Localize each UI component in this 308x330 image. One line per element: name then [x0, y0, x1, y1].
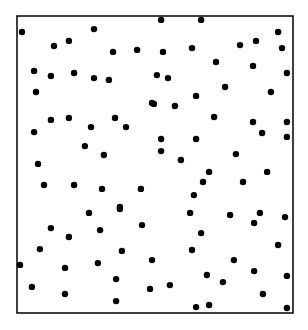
scatter-point — [240, 179, 246, 185]
scatter-point — [62, 265, 68, 271]
scatter-point — [264, 169, 270, 175]
scatter-point — [149, 257, 155, 263]
scatter-point — [29, 284, 35, 290]
scatter-point — [17, 262, 23, 268]
scatter-point — [284, 305, 290, 311]
scatter-point — [62, 291, 68, 297]
scatter-point — [97, 227, 103, 233]
scatter-point — [35, 161, 41, 167]
scatter-point — [117, 206, 123, 212]
scatter-point — [233, 151, 239, 157]
scatter-point — [113, 276, 119, 282]
scatter-point — [31, 68, 37, 74]
scatter-point — [48, 73, 54, 79]
scatter-point — [275, 242, 281, 248]
scatter-point — [206, 169, 212, 175]
scatter-point — [251, 220, 257, 226]
scatter-point — [86, 210, 92, 216]
scatter-plot — [0, 0, 308, 330]
scatter-point — [284, 70, 290, 76]
scatter-point — [198, 17, 204, 23]
scatter-point — [99, 186, 105, 192]
scatter-point — [257, 210, 263, 216]
scatter-point — [260, 291, 266, 297]
scatter-point — [193, 93, 199, 99]
scatter-point — [250, 63, 256, 69]
scatter-point — [88, 124, 94, 130]
scatter-point — [106, 77, 112, 83]
scatter-point — [191, 192, 197, 198]
scatter-point — [220, 279, 226, 285]
scatter-point — [66, 115, 72, 121]
scatter-point — [268, 89, 274, 95]
scatter-point — [250, 119, 256, 125]
scatter-point — [123, 124, 129, 130]
scatter-point — [66, 38, 72, 44]
scatter-point — [284, 119, 290, 125]
scatter-point — [151, 101, 157, 107]
scatter-point — [189, 45, 195, 51]
scatter-point — [37, 246, 43, 252]
plot-frame — [17, 16, 293, 313]
scatter-point — [147, 286, 153, 292]
scatter-point — [284, 273, 290, 279]
scatter-point — [275, 29, 281, 35]
scatter-point — [138, 186, 144, 192]
scatter-point — [237, 42, 243, 48]
scatter-point — [48, 225, 54, 231]
scatter-point — [139, 222, 145, 228]
scatter-point — [158, 17, 164, 23]
scatter-point — [31, 129, 37, 135]
scatter-point — [82, 143, 88, 149]
scatter-point — [51, 43, 57, 49]
scatter-point — [231, 257, 237, 263]
scatter-point — [110, 49, 116, 55]
scatter-point — [198, 230, 204, 236]
scatter-point — [213, 59, 219, 65]
scatter-point — [165, 75, 171, 81]
scatter-point — [193, 304, 199, 310]
scatter-point — [206, 302, 212, 308]
scatter-point — [154, 72, 160, 78]
scatter-point — [95, 260, 101, 266]
points-layer — [17, 17, 290, 311]
scatter-point — [19, 29, 25, 35]
scatter-point — [113, 298, 119, 304]
scatter-point — [189, 247, 195, 253]
scatter-point — [66, 234, 72, 240]
scatter-point — [91, 75, 97, 81]
scatter-point — [187, 210, 193, 216]
scatter-point — [101, 152, 107, 158]
scatter-point — [282, 214, 288, 220]
scatter-point — [259, 130, 265, 136]
scatter-point — [48, 117, 54, 123]
scatter-point — [200, 179, 206, 185]
scatter-point — [253, 38, 259, 44]
scatter-point — [134, 47, 140, 53]
scatter-point — [279, 45, 285, 51]
scatter-point — [178, 157, 184, 163]
scatter-point — [91, 26, 97, 32]
scatter-point — [172, 103, 178, 109]
scatter-point — [160, 49, 166, 55]
scatter-point — [193, 136, 199, 142]
scatter-point — [222, 84, 228, 90]
scatter-point — [167, 282, 173, 288]
scatter-point — [71, 182, 77, 188]
scatter-point — [112, 115, 118, 121]
scatter-point — [204, 272, 210, 278]
scatter-point — [251, 268, 257, 274]
scatter-point — [211, 114, 217, 120]
scatter-point — [227, 212, 233, 218]
scatter-point — [119, 248, 125, 254]
scatter-point — [33, 89, 39, 95]
scatter-point — [71, 70, 77, 76]
scatter-point — [41, 182, 47, 188]
scatter-point — [158, 148, 164, 154]
scatter-point — [158, 136, 164, 142]
scatter-point — [284, 134, 290, 140]
